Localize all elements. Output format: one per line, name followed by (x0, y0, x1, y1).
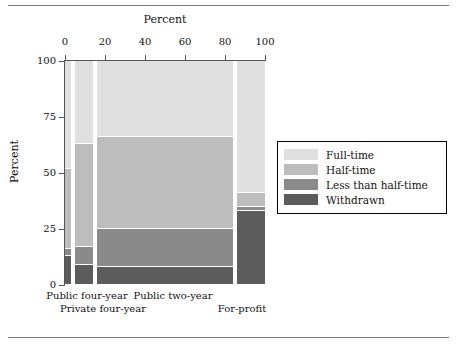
y-tick-25 (59, 229, 64, 230)
category-label-public-two-year: Public two-year (113, 290, 233, 301)
category-label-for-profit: For-profit (182, 303, 302, 314)
legend-label: Full-time (326, 149, 374, 161)
mosaic-segment[interactable] (97, 267, 233, 284)
x-tick-100 (265, 55, 266, 60)
legend-row[interactable]: Half-time (284, 162, 440, 177)
y-tick-50 (59, 173, 64, 174)
legend-swatch-icon (284, 194, 318, 205)
mosaic-column[interactable] (75, 61, 93, 285)
x-tick-label: 20 (85, 36, 125, 47)
legend-label: Half-time (326, 164, 376, 176)
mosaic-column[interactable] (65, 61, 71, 285)
y-tick-label: 100 (24, 55, 56, 66)
legend-swatch-icon (284, 179, 318, 190)
category-label-private-four-year: Private four-year (43, 303, 163, 314)
mosaic-segment[interactable] (237, 61, 265, 192)
mosaic-segment[interactable] (75, 61, 93, 143)
x-axis-title: Percent (105, 13, 225, 26)
legend-swatch-icon (284, 164, 318, 175)
x-tick-60 (185, 55, 186, 60)
mosaic-segment[interactable] (65, 169, 71, 249)
x-tick-label: 0 (45, 36, 85, 47)
plot-area (65, 61, 265, 285)
bottom-rule (8, 337, 449, 338)
legend-row[interactable]: Full-time (284, 147, 440, 162)
x-tick-label: 40 (125, 36, 165, 47)
y-axis-title: Percent (8, 122, 21, 202)
mosaic-segment[interactable] (97, 61, 233, 136)
mosaic-segment[interactable] (65, 256, 71, 284)
y-tick-100 (59, 61, 64, 62)
y-tick-75 (59, 117, 64, 118)
y-tick-label: 25 (24, 223, 56, 234)
mosaic-segment[interactable] (65, 249, 71, 255)
legend-label: Less than half-time (326, 179, 428, 191)
mosaic-segment[interactable] (65, 61, 71, 168)
mosaic-column[interactable] (237, 61, 265, 285)
mosaic-segment[interactable] (97, 229, 233, 266)
x-tick-0 (65, 55, 66, 60)
x-tick-80 (225, 55, 226, 60)
y-tick-label: 50 (24, 167, 56, 178)
top-rule (8, 5, 449, 6)
x-tick-20 (105, 55, 106, 60)
x-tick-label: 80 (205, 36, 245, 47)
mosaic-column[interactable] (97, 61, 233, 285)
mosaic-segment[interactable] (75, 247, 93, 264)
mosaic-segment[interactable] (75, 144, 93, 246)
legend-swatch-icon (284, 149, 318, 160)
mosaic-segment[interactable] (237, 193, 265, 205)
mosaic-segment[interactable] (75, 265, 93, 284)
legend-label: Withdrawn (326, 194, 385, 206)
mosaic-segment[interactable] (237, 211, 265, 284)
mosaic-segment[interactable] (237, 207, 265, 210)
y-tick-label: 0 (24, 279, 56, 290)
x-tick-label: 100 (245, 36, 285, 47)
y-tick-label: 75 (24, 111, 56, 122)
legend-row[interactable]: Withdrawn (284, 192, 440, 207)
x-tick-label: 60 (165, 36, 205, 47)
chart-legend: Full-timeHalf-timeLess than half-timeWit… (277, 141, 447, 214)
mosaic-segment[interactable] (97, 137, 233, 228)
legend-row[interactable]: Less than half-time (284, 177, 440, 192)
x-tick-40 (145, 55, 146, 60)
y-tick-0 (59, 285, 64, 286)
mosaic-chart-figure: Percent Percent 020406080100 1007550250 … (0, 0, 457, 353)
